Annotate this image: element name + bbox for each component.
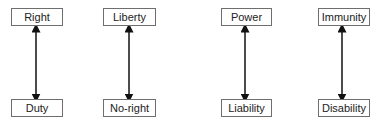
node-disability: Disability <box>318 99 370 117</box>
node-immunity: Immunity <box>318 8 370 26</box>
node-liberty: Liberty <box>103 8 156 26</box>
node-power: Power <box>221 8 272 26</box>
node-liability: Liability <box>221 99 272 117</box>
node-no-right: No-right <box>103 99 156 117</box>
node-right: Right <box>11 8 63 26</box>
node-duty: Duty <box>11 99 63 117</box>
